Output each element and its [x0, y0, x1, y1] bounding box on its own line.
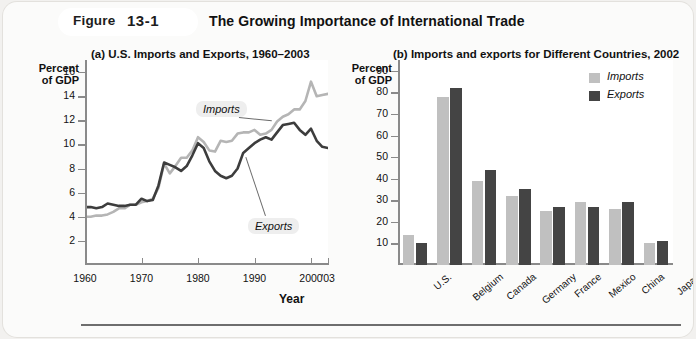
panel-a-plot-area [85, 60, 328, 265]
panel-b-category-label: U.S. [432, 271, 454, 292]
panel-b-bar-china-imports [609, 209, 621, 265]
panel-b-category-label: Canada [504, 271, 538, 302]
panel-b-y-tick-label: 60 [362, 129, 388, 141]
panel-b-bar-belgium-imports [437, 97, 449, 265]
panel-b-bar-canada-exports [485, 170, 497, 265]
panel-b-bar-japan-exports [657, 241, 669, 265]
panel-b-y-tick [391, 243, 398, 244]
panel-b-y-tick-label: 10 [362, 236, 388, 248]
figure-title: The Growing Importance of International … [209, 13, 525, 29]
panel-a-x-tick [328, 258, 329, 265]
panel-a-x-tick [85, 258, 86, 265]
panel-a-y-tick-label: 10 [49, 137, 75, 149]
panel-b-bar-us-exports [416, 243, 428, 265]
legend-swatch-exports [589, 91, 600, 101]
panel-b-bar-mexico-imports [575, 202, 587, 265]
panel-b-category-label: Japan [674, 271, 693, 297]
panel-a-y-tick [78, 217, 85, 218]
panel-b-bar-canada-imports [472, 181, 484, 265]
panel-b-bar-us-imports [403, 235, 415, 265]
panel-a-y-tick-label: 6 [49, 186, 75, 198]
panel-b-y-tick-label: 90 [362, 64, 388, 76]
panel-b-y-tick [391, 136, 398, 137]
legend-label-imports: Imports [607, 70, 644, 82]
panel-b-y-tick-label: 30 [362, 193, 388, 205]
panel-a-x-tick [311, 258, 312, 265]
figure-card: Figure 13-1 The Growing Importance of In… [3, 2, 693, 337]
panel-a-x-tick-label: 1990 [233, 272, 277, 284]
panel-b-y-tick [391, 92, 398, 93]
panel-a-y-tick [78, 96, 85, 97]
panel-a-x-tick-label: 1980 [176, 272, 220, 284]
panel-a-imports-callout: Imports [196, 101, 247, 117]
panel-b-category-label: Mexico [606, 271, 637, 300]
panel-a-y-tick [78, 144, 85, 145]
bottom-divider [81, 324, 681, 326]
panel-a-x-axis-label: Year [279, 292, 304, 306]
panel-b-bar-france-imports [540, 211, 552, 265]
panel-a-x-tick [198, 258, 199, 265]
panel-b-y-tick [391, 71, 398, 72]
panel-b-y-caption-line2: of GDP [355, 74, 392, 86]
panel-a-x-tick-label: 1960 [63, 272, 107, 284]
panel-b-y-axis [398, 60, 400, 265]
panel-a-y-tick [78, 169, 85, 170]
panel-b-bar-china-exports [622, 202, 634, 265]
panel-b-y-tick-label: 40 [362, 172, 388, 184]
panel-a-x-axis [85, 263, 328, 265]
panel-a-y-tick-label: 16 [49, 65, 75, 77]
panel-b-y-tick [391, 222, 398, 223]
panel-b-category-label: Germany [540, 271, 579, 306]
panel-a-x-tick-label: 1970 [120, 272, 164, 284]
panel-a-y-tick [78, 72, 85, 73]
panel-a-line-chart [85, 60, 328, 265]
panel-b-y-tick-label: 50 [362, 150, 388, 162]
panel-a-series-exports [85, 123, 328, 209]
panel-b-y-tick-label: 20 [362, 215, 388, 227]
panel-b-category-label: France [572, 271, 603, 299]
panel-b-bar-germany-imports [506, 196, 518, 265]
panel-b-bar-france-exports [553, 207, 565, 265]
panel-a-y-tick [78, 120, 85, 121]
panel-a-title: (a) U.S. Imports and Exports, 1960–2003 [91, 48, 310, 60]
figure-number: 13-1 [127, 12, 159, 29]
panel-a-y-tick-label: 4 [49, 210, 75, 222]
panel-a-y-tick [78, 241, 85, 242]
panel-b-category-label: Belgium [470, 271, 505, 303]
panel-b-y-tick [391, 114, 398, 115]
panel-b-bar-germany-exports [519, 189, 531, 265]
panel-a-y-tick-label: 8 [49, 162, 75, 174]
panel-a-y-axis [85, 60, 87, 265]
panel-a-x-tick [142, 258, 143, 265]
panel-a-x-tick [255, 258, 256, 265]
panel-b-y-tick [391, 179, 398, 180]
figure-header: Figure 13-1 The Growing Importance of In… [3, 8, 693, 38]
panel-a-y-tick-label: 2 [49, 234, 75, 246]
panel-a-exports-callout: Exports [248, 218, 299, 234]
panel-a-y-tick-label: 12 [49, 113, 75, 125]
panel-a-x-tick-label: '03 [306, 272, 350, 284]
panel-b-y-tick-label: 80 [362, 85, 388, 97]
figure-label: Figure [73, 13, 115, 28]
legend-label-exports: Exports [607, 88, 644, 100]
panel-a-y-tick [78, 193, 85, 194]
panel-b-bar-mexico-exports [588, 207, 600, 265]
panel-a-y-tick-label: 14 [49, 89, 75, 101]
legend-swatch-imports [589, 73, 600, 83]
panel-b-bar-belgium-exports [450, 88, 462, 265]
panel-b-y-tick [391, 200, 398, 201]
panel-b-bar-japan-imports [644, 243, 656, 265]
panel-b-title: (b) Imports and exports for Different Co… [393, 48, 679, 60]
panel-b-y-tick-label: 70 [362, 107, 388, 119]
panel-b-y-tick [391, 157, 398, 158]
panel-b-category-label: China [640, 271, 667, 296]
